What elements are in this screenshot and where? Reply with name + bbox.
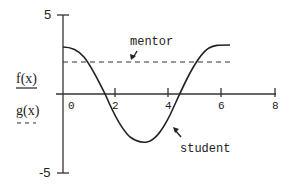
y-tick-label-top: 5 bbox=[44, 9, 51, 20]
x-tick-label-2: 2 bbox=[112, 101, 119, 112]
x-tick-label-4: 4 bbox=[165, 101, 172, 112]
y-tick-label-bottom: -5 bbox=[39, 167, 51, 178]
x-tick-label-0: 0 bbox=[68, 101, 75, 112]
legend-f: f(x) bbox=[16, 73, 37, 85]
x-tick-label-6: 6 bbox=[218, 101, 225, 112]
legend-g: g(x) bbox=[16, 105, 39, 117]
mentor-label: mentor bbox=[130, 36, 173, 48]
student-label: student bbox=[180, 143, 230, 155]
x-tick-label-8: 8 bbox=[272, 101, 279, 112]
chart-canvas bbox=[0, 0, 293, 189]
